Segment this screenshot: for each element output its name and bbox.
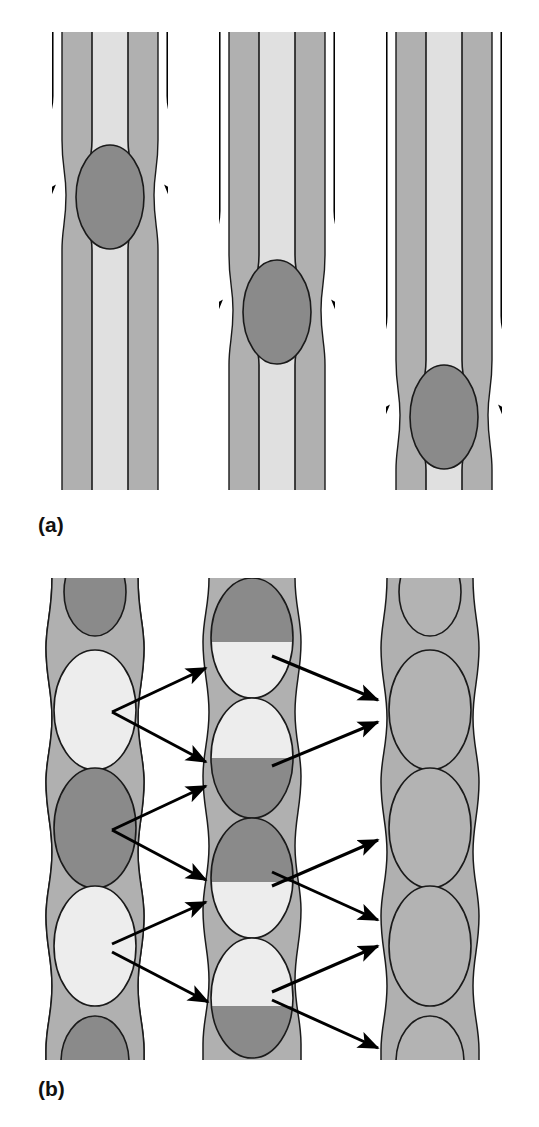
pore-body-dark-l0 bbox=[64, 548, 126, 636]
streamline-right-2 bbox=[335, 32, 346, 320]
figure-root: (a) (b) bbox=[0, 0, 539, 1127]
panel-a-stage-2 bbox=[208, 32, 346, 495]
channel-wall-left-1 bbox=[62, 32, 92, 495]
panel-b-column-left bbox=[46, 548, 144, 1108]
pore-body-mixed-r4 bbox=[396, 1016, 464, 1108]
particle-3 bbox=[410, 365, 478, 469]
pore-body-mixed-r1 bbox=[389, 650, 471, 770]
panel-b-column-middle bbox=[203, 575, 301, 1066]
particle-2 bbox=[243, 260, 311, 364]
channel-wall-right-2 bbox=[295, 32, 325, 495]
pore-body-dark-l2 bbox=[54, 768, 136, 888]
panel-b bbox=[46, 548, 479, 1108]
panel-label-a: (a) bbox=[38, 513, 64, 537]
streamline-left-1 bbox=[41, 32, 52, 205]
streamline-right-1 bbox=[168, 32, 179, 205]
panel-b-column-right bbox=[381, 548, 479, 1108]
streamline-right-3 bbox=[502, 32, 513, 425]
pore-body-mixed-r3 bbox=[389, 886, 471, 1006]
panel-label-b: (b) bbox=[38, 1077, 65, 1101]
panel-a-stage-3 bbox=[375, 32, 513, 495]
streamline-left-3 bbox=[375, 32, 386, 425]
pore-body-dark-l4 bbox=[61, 1016, 129, 1108]
streamline-left-2 bbox=[208, 32, 219, 320]
panel-a-stage-1 bbox=[41, 32, 179, 495]
particle-1 bbox=[76, 145, 144, 249]
pore-body-light-l1 bbox=[54, 650, 136, 770]
panel-a bbox=[41, 32, 513, 495]
channel-wall-left-2 bbox=[229, 32, 259, 495]
pore-body-mixed-r2 bbox=[389, 768, 471, 888]
pore-body-mixed-r0 bbox=[399, 548, 461, 636]
channel-wall-right-1 bbox=[128, 32, 158, 495]
pore-body-light-l3 bbox=[54, 886, 136, 1006]
figure-canvas bbox=[0, 0, 539, 1127]
